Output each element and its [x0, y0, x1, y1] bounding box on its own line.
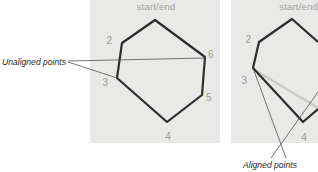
right-start-end-label: start/end	[279, 1, 318, 12]
left-vertex-label-6: 6	[208, 49, 214, 60]
left-vertex-label-4: 4	[165, 131, 171, 142]
unaligned-points-label: Unaligned points	[2, 57, 67, 67]
aligned-points-label: Aligned points	[242, 160, 298, 170]
left-vertex-label-5: 5	[206, 92, 212, 103]
pen-tool-alignment-figure: start/end 2 3 4 5 6 Unaligned points sta…	[0, 0, 318, 172]
left-start-end-label: start/end	[137, 1, 176, 12]
figure-canvas: start/end 2 3 4 5 6 Unaligned points sta…	[0, 0, 318, 172]
left-vertex-label-3: 3	[102, 77, 108, 88]
left-vertex-label-2: 2	[106, 35, 112, 46]
right-vertex-label-4: 4	[301, 132, 307, 143]
right-vertex-label-2: 2	[245, 34, 251, 45]
right-vertex-label-3: 3	[241, 75, 247, 86]
left-panel-background	[90, 0, 220, 143]
